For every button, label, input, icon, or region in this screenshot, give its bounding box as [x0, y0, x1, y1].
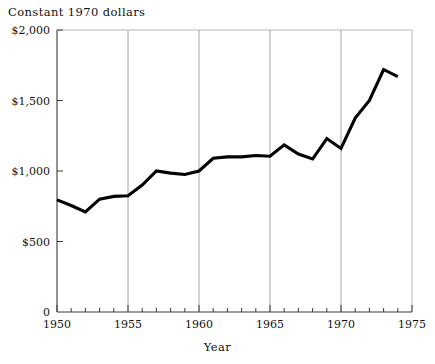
- data-series-line: [57, 69, 398, 211]
- chart-frame: [57, 30, 412, 312]
- y-tick-label-2000: $2,000: [12, 24, 51, 37]
- y-tick-label-1500: $1,500: [12, 94, 51, 107]
- y-tick-label-0: 0: [43, 306, 50, 319]
- x-tick-label-1975: 1975: [398, 318, 426, 331]
- x-tick-label-1950: 1950: [43, 318, 71, 331]
- chart-axes: [57, 30, 412, 312]
- x-tick-label-1965: 1965: [256, 318, 284, 331]
- x-axis-title: Year: [0, 340, 435, 354]
- axis-ticks: [57, 30, 412, 312]
- x-tick-label-1960: 1960: [185, 318, 213, 331]
- y-tick-label-1000: $1,000: [12, 165, 51, 178]
- x-tick-label-1955: 1955: [114, 318, 142, 331]
- x-tick-label-1970: 1970: [327, 318, 355, 331]
- y-tick-label-500: $500: [22, 235, 50, 248]
- chart-plot-area: [0, 0, 435, 364]
- chart-container: Constant 1970 dollars 0$500$1,000$1,500$…: [0, 0, 435, 364]
